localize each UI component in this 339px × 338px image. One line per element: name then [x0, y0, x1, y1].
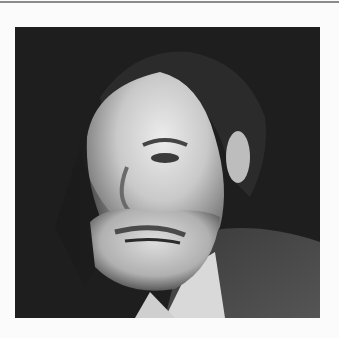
top-rule-divider: [0, 1, 339, 3]
portrait-photo: [15, 27, 320, 318]
portrait-image: [15, 27, 320, 318]
